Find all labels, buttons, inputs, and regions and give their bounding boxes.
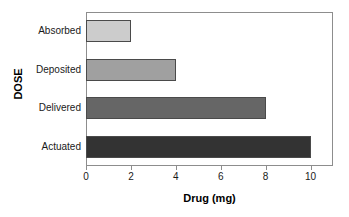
x-tick-mark-2 <box>131 166 132 170</box>
bar-fill-deposited <box>86 59 176 81</box>
bar-actuated <box>86 136 311 158</box>
y-axis-title: DOSE <box>12 44 24 124</box>
bar-deposited <box>86 59 176 81</box>
x-tick-label-0: 0 <box>66 171 106 182</box>
bar-chart-figure: AbsorbedDepositedDeliveredActuated 02468… <box>0 0 349 217</box>
bar-fill-actuated <box>86 136 311 158</box>
x-tick-label-4: 4 <box>156 171 196 182</box>
bar-fill-absorbed <box>86 20 131 42</box>
x-tick-mark-6 <box>221 166 222 170</box>
x-axis-title: Drug (mg) <box>86 192 333 204</box>
x-tick-label-10: 10 <box>291 171 331 182</box>
x-tick-label-2: 2 <box>111 171 151 182</box>
x-tick-label-8: 8 <box>246 171 286 182</box>
x-tick-label-6: 6 <box>201 171 241 182</box>
category-label-actuated: Actuated <box>0 141 81 152</box>
bar-absorbed <box>86 20 131 42</box>
x-tick-mark-8 <box>266 166 267 170</box>
category-label-absorbed: Absorbed <box>0 25 81 36</box>
x-tick-mark-10 <box>311 166 312 170</box>
bar-delivered <box>86 97 266 119</box>
x-tick-mark-4 <box>176 166 177 170</box>
x-tick-mark-0 <box>86 166 87 170</box>
bar-fill-delivered <box>86 97 266 119</box>
